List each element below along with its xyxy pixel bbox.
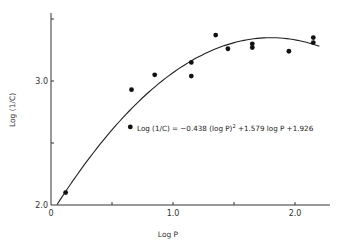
x-tick-label: 2.0 <box>289 209 302 218</box>
x-axis-label: Log P <box>158 230 179 239</box>
data-points <box>63 33 315 195</box>
data-point <box>63 190 68 195</box>
data-point <box>213 33 218 38</box>
y-tick-label: 2.0 <box>35 201 48 210</box>
y-tick-label: 3.0 <box>35 77 48 86</box>
data-point <box>189 74 194 79</box>
y-axis: 2.03.0 <box>35 13 54 210</box>
data-point <box>287 49 292 54</box>
equation-prefix: Log (1/C) = −0.438 (log P) <box>137 124 233 133</box>
x-tick-label: 0 <box>48 209 53 218</box>
x-axis: 01.02.0 <box>48 202 330 218</box>
data-point <box>128 124 133 129</box>
data-point <box>311 35 316 40</box>
data-point <box>189 60 194 65</box>
chart: 01.02.0 2.03.0 Log P Log (1/C) Log (1/C)… <box>0 0 339 243</box>
data-point <box>250 45 255 50</box>
y-axis-label: Log (1/C) <box>8 93 17 127</box>
data-point <box>152 72 157 77</box>
data-point <box>311 40 316 45</box>
data-point <box>226 46 231 51</box>
x-tick-label: 1.0 <box>167 209 180 218</box>
equation-suffix: +1.579 log P +1.926 <box>236 124 314 133</box>
fit-equation: Log (1/C) = −0.438 (log P)2 +1.579 log P… <box>137 123 314 133</box>
data-point <box>129 87 134 92</box>
fit-curve <box>57 38 319 205</box>
